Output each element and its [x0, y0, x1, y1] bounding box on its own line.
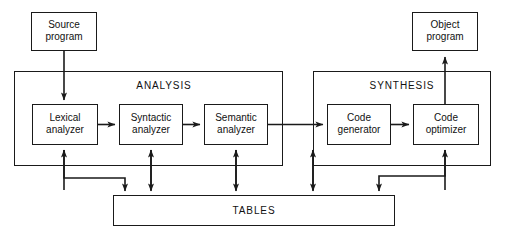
syntactic-analyzer-box	[120, 105, 183, 145]
diagram-vector-layer	[0, 0, 506, 239]
semantic-analyzer-box	[205, 105, 268, 145]
object-program-box	[413, 13, 478, 51]
analysis-group-label: ANALYSIS	[119, 80, 209, 91]
edge-lexical-tables-down	[64, 150, 125, 191]
lexical-analyzer-box	[33, 105, 98, 145]
diagram-canvas: ANALYSIS SYNTHESIS Source program Object…	[0, 0, 506, 239]
code-generator-box	[328, 105, 391, 145]
source-program-box	[32, 13, 97, 51]
code-optimizer-box	[414, 105, 479, 145]
edge-optimizer-tables-down	[379, 150, 445, 191]
synthesis-group-label: SYNTHESIS	[356, 80, 448, 91]
tables-label: TABLES	[113, 205, 395, 216]
